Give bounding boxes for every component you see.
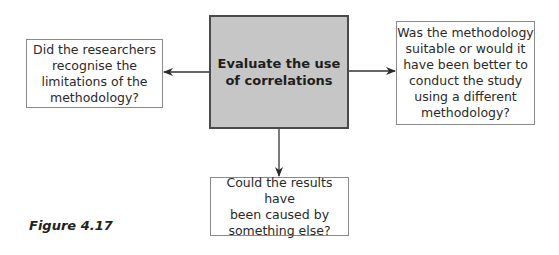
right-node-line: have been better to xyxy=(397,57,534,73)
central-node-line: of correlations xyxy=(218,72,341,89)
right-node-line: suitable or would it xyxy=(397,41,534,57)
right-node-line: using a different xyxy=(397,89,534,105)
bottom-node: Could the results have been caused by so… xyxy=(210,177,349,236)
left-node-line: limitations of the xyxy=(33,74,156,90)
left-node-line: recognise the xyxy=(33,58,156,74)
right-node-line: Was the methodology xyxy=(397,25,534,41)
right-node: Was the methodology suitable or would it… xyxy=(396,21,535,125)
bottom-node-line: something else? xyxy=(211,223,348,239)
left-node: Did the researchers recognise the limita… xyxy=(26,39,163,108)
figure-caption: Figure 4.17 xyxy=(29,218,113,233)
central-node-line: Evaluate the use xyxy=(218,55,341,72)
right-node-line: methodology? xyxy=(397,105,534,121)
central-node: Evaluate the use of correlations xyxy=(209,15,349,129)
bottom-node-line: been caused by xyxy=(211,207,348,223)
left-node-line: Did the researchers xyxy=(33,42,156,58)
right-node-line: conduct the study xyxy=(397,73,534,89)
bottom-node-line: Could the results have xyxy=(211,175,348,207)
left-node-line: methodology? xyxy=(33,90,156,106)
